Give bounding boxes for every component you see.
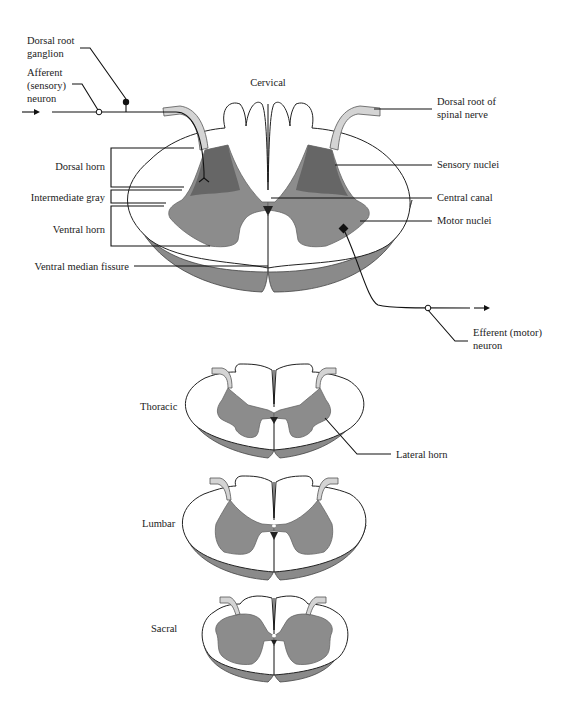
- svg-text:neuron: neuron: [473, 340, 503, 351]
- svg-text:neuron: neuron: [27, 93, 57, 104]
- svg-text:(sensory): (sensory): [27, 80, 67, 92]
- label-sacral: Sacral: [151, 623, 177, 634]
- svg-text:Ventral median fissure: Ventral median fissure: [35, 261, 130, 272]
- cervical-white-matter: [128, 102, 411, 268]
- sacral-section: [202, 596, 348, 682]
- efferent-cell-body: [425, 305, 431, 311]
- svg-text:Sensory nuclei: Sensory nuclei: [437, 159, 499, 170]
- label-thoracic: Thoracic: [140, 401, 178, 412]
- cervical-central-canal: [266, 197, 271, 201]
- label-afferent-neuron: Afferent (sensory) neuron: [27, 67, 98, 110]
- label-efferent-neuron: Efferent (motor) neuron: [428, 310, 542, 351]
- label-lumbar: Lumbar: [142, 518, 176, 529]
- lumbar-section: [182, 476, 366, 580]
- afferent-cell-body: [96, 109, 102, 115]
- svg-text:ganglion: ganglion: [27, 48, 64, 59]
- svg-text:spinal nerve: spinal nerve: [437, 109, 488, 120]
- label-dorsal-root-of-spinal-nerve: Dorsal root of spinal nerve: [374, 96, 496, 120]
- dorsal-root-ganglion-icon: [123, 99, 129, 105]
- svg-text:Dorsal horn: Dorsal horn: [55, 161, 106, 172]
- label-cervical: Cervical: [250, 77, 286, 88]
- svg-text:Central canal: Central canal: [437, 192, 493, 203]
- svg-text:Lateral horn: Lateral horn: [396, 449, 448, 460]
- svg-text:Ventral horn: Ventral horn: [53, 224, 106, 235]
- spinal-cord-diagram: Cervical Dorsal root ganglion Afferent (…: [0, 0, 570, 713]
- afferent-arrow-head: [34, 109, 40, 115]
- thoracic-section: [185, 364, 363, 458]
- svg-text:Dorsal root of: Dorsal root of: [437, 96, 496, 107]
- svg-text:Motor nuclei: Motor nuclei: [437, 215, 492, 226]
- cervical-section: [22, 99, 490, 311]
- svg-text:Efferent (motor): Efferent (motor): [473, 327, 542, 339]
- svg-text:Intermediate gray: Intermediate gray: [31, 192, 106, 203]
- svg-text:Dorsal root: Dorsal root: [27, 35, 75, 46]
- svg-text:Afferent: Afferent: [27, 67, 62, 78]
- efferent-arrow-head: [484, 305, 490, 311]
